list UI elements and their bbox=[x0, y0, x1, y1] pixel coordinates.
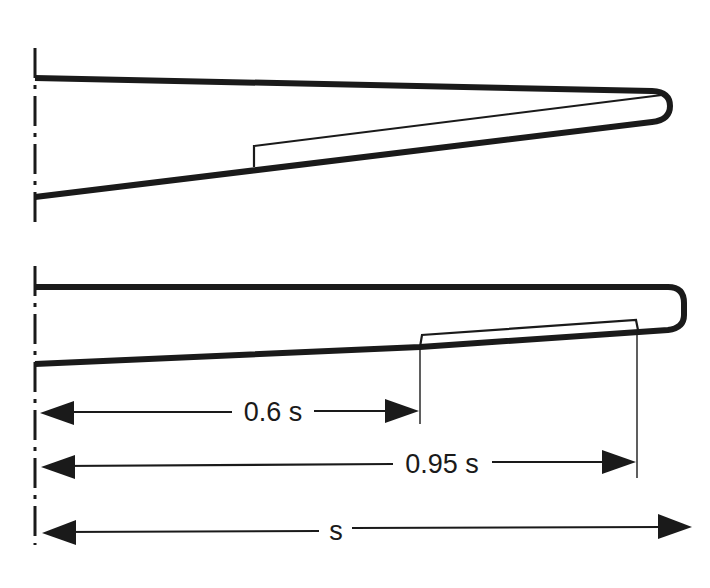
arrow-right-icon bbox=[385, 399, 419, 423]
arrow-left-icon bbox=[41, 455, 75, 479]
arrow-right-icon bbox=[658, 514, 692, 539]
dimension-label: 0.6 s bbox=[244, 397, 303, 427]
dimension-0-6s: 0.6 s bbox=[40, 397, 419, 427]
tapered-wing-figure bbox=[35, 48, 670, 226]
dimension-label: 0.95 s bbox=[405, 449, 479, 479]
dimension-line bbox=[60, 531, 319, 532]
arrow-left-icon bbox=[42, 520, 76, 545]
arrow-right-icon bbox=[602, 450, 636, 474]
dimension-line bbox=[352, 527, 665, 528]
diagram-canvas: 0.6 s 0.95 s s bbox=[0, 0, 710, 588]
dimension-s: s bbox=[42, 514, 692, 546]
tapered-wing-outline bbox=[35, 78, 670, 197]
rectangular-wing-figure bbox=[35, 266, 684, 545]
rectangular-wing-outline bbox=[35, 287, 684, 364]
dimension-line bbox=[60, 464, 393, 466]
dimension-0-95s: 0.95 s bbox=[41, 449, 636, 479]
arrow-left-icon bbox=[40, 401, 74, 425]
dimension-label: s bbox=[329, 516, 343, 546]
